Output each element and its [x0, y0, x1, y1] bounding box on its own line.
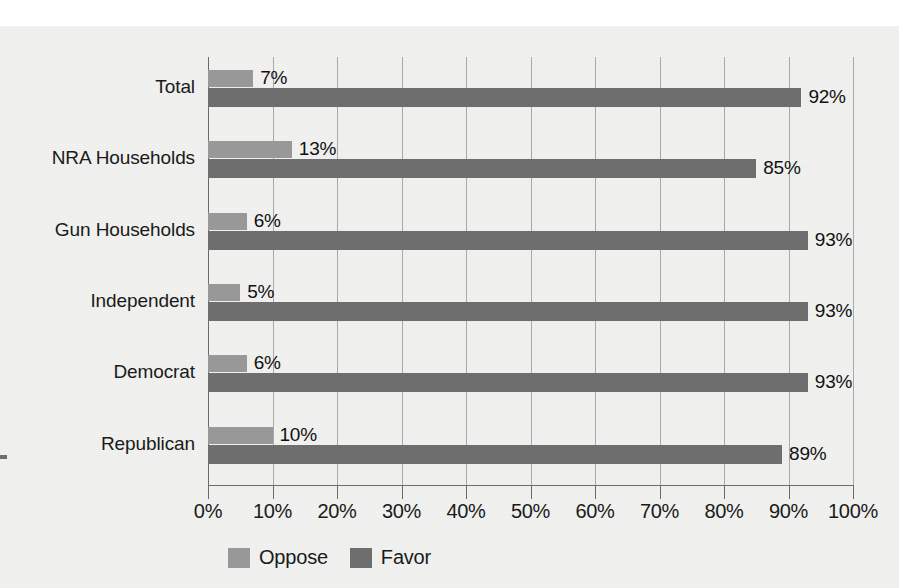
x-tick-80	[724, 486, 725, 499]
value-label-favor-gun-households: 93%	[815, 229, 852, 251]
x-tick-label-60: 60%	[575, 500, 614, 523]
legend-item-favor[interactable]: Favor	[350, 546, 431, 569]
x-tick-20	[337, 486, 338, 499]
legend-item-oppose[interactable]: Oppose	[228, 546, 328, 569]
value-label-favor-democrat: 93%	[815, 371, 852, 393]
bar-favor-gun-households	[208, 231, 808, 250]
x-tick-10	[273, 486, 274, 499]
category-label-total: Total	[155, 76, 195, 98]
value-label-oppose-republican: 10%	[280, 424, 317, 446]
gridline-10	[273, 57, 274, 485]
category-label-democrat: Democrat	[113, 361, 195, 383]
bar-favor-total	[208, 88, 801, 107]
value-label-favor-nra-households: 85%	[763, 157, 800, 179]
value-label-oppose-gun-households: 6%	[254, 210, 281, 232]
value-label-favor-republican: 89%	[789, 443, 826, 465]
x-tick-label-30: 30%	[382, 500, 421, 523]
gridline-60	[595, 57, 596, 485]
x-tick-label-50: 50%	[511, 500, 550, 523]
legend-label-oppose: Oppose	[259, 546, 328, 569]
x-tick-label-10: 10%	[253, 500, 292, 523]
value-label-oppose-independent: 5%	[247, 281, 274, 303]
gridline-0	[208, 57, 209, 485]
x-tick-label-80: 80%	[704, 500, 743, 523]
x-tick-label-70: 70%	[640, 500, 679, 523]
category-label-republican: Republican	[101, 433, 195, 455]
bar-oppose-republican	[208, 427, 273, 444]
category-label-gun-households: Gun Households	[55, 219, 195, 241]
gridline-30	[402, 57, 403, 485]
x-tick-100	[853, 486, 854, 499]
bar-oppose-gun-households	[208, 213, 247, 230]
gridline-80	[724, 57, 725, 485]
bar-favor-democrat	[208, 373, 808, 392]
value-label-favor-total: 92%	[808, 86, 845, 108]
x-tick-50	[531, 486, 532, 499]
x-tick-label-40: 40%	[446, 500, 485, 523]
x-tick-30	[402, 486, 403, 499]
oppose-swatch-icon	[228, 548, 250, 568]
gridline-90	[789, 57, 790, 485]
category-label-independent: Independent	[90, 290, 195, 312]
value-label-oppose-democrat: 6%	[254, 352, 281, 374]
x-tick-40	[466, 486, 467, 499]
gridline-70	[660, 57, 661, 485]
bar-oppose-democrat	[208, 355, 247, 372]
x-tick-label-0: 0%	[194, 500, 222, 523]
favor-swatch-icon	[350, 548, 372, 568]
value-label-oppose-nra-households: 13%	[299, 138, 336, 160]
legend-label-favor: Favor	[381, 546, 431, 569]
category-label-nra-households: NRA Households	[52, 147, 195, 169]
x-tick-label-90: 90%	[769, 500, 808, 523]
bar-favor-republican	[208, 445, 782, 464]
x-tick-90	[789, 486, 790, 499]
gridline-50	[531, 57, 532, 485]
bar-oppose-independent	[208, 284, 240, 301]
bar-oppose-nra-households	[208, 141, 292, 158]
chart-legend: Oppose Favor	[228, 546, 431, 569]
bar-oppose-total	[208, 70, 253, 87]
value-label-favor-independent: 93%	[815, 300, 852, 322]
gridline-100	[853, 57, 854, 485]
x-tick-label-100: 100%	[828, 500, 878, 523]
bar-favor-independent	[208, 302, 808, 321]
gridline-40	[466, 57, 467, 485]
gridline-20	[337, 57, 338, 485]
bar-favor-nra-households	[208, 159, 756, 178]
chart-page: Oppose Favor 0%10%20%30%40%50%60%70%80%9…	[0, 0, 899, 588]
x-tick-60	[595, 486, 596, 499]
plot-area	[208, 57, 853, 485]
x-tick-label-20: 20%	[317, 500, 356, 523]
x-tick-70	[660, 486, 661, 499]
scan-edge-artifact	[0, 455, 7, 459]
x-tick-0	[208, 486, 209, 499]
value-label-oppose-total: 7%	[260, 67, 287, 89]
